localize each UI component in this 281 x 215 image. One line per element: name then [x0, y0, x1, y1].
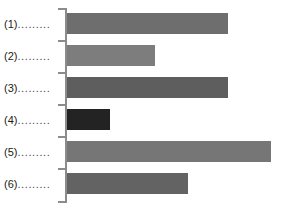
- bar-row: (6).........: [0, 173, 281, 194]
- bar-label-key: (3): [4, 82, 17, 94]
- bar-label: (1).........: [4, 13, 64, 34]
- bar-label-leader: .........: [17, 50, 50, 62]
- bar-label-leader: .........: [17, 114, 50, 126]
- axis-tick: [58, 72, 65, 74]
- bar-label-key: (5): [4, 146, 17, 158]
- bar-label-key: (6): [4, 178, 17, 190]
- bar[interactable]: [67, 141, 271, 162]
- bar[interactable]: [67, 109, 110, 130]
- bar[interactable]: [67, 173, 188, 194]
- bar-label: (3).........: [4, 77, 64, 98]
- bar[interactable]: [67, 77, 228, 98]
- bar-row: (5).........: [0, 141, 281, 162]
- bar[interactable]: [67, 13, 228, 34]
- bar-label-key: (2): [4, 50, 17, 62]
- bar-label: (5).........: [4, 141, 64, 162]
- bar-label: (2).........: [4, 45, 64, 66]
- axis-tick: [58, 8, 65, 10]
- bar-label: (4).........: [4, 109, 64, 130]
- bar-row: (1).........: [0, 13, 281, 34]
- bar-label-leader: .........: [17, 146, 50, 158]
- bar-label-leader: .........: [17, 82, 50, 94]
- axis-tick: [58, 40, 65, 42]
- bar-row: (2).........: [0, 45, 281, 66]
- bar-label: (6).........: [4, 173, 64, 194]
- bar-chart: (1)......... (2)......... (3)......... (…: [0, 0, 281, 215]
- axis-tick: [58, 168, 65, 170]
- axis-tick: [58, 104, 65, 106]
- bar-row: (3).........: [0, 77, 281, 98]
- bar-label-key: (1): [4, 18, 17, 30]
- bar[interactable]: [67, 45, 155, 66]
- bar-label-key: (4): [4, 114, 17, 126]
- bar-label-leader: .........: [17, 178, 50, 190]
- bar-label-leader: .........: [17, 18, 50, 30]
- axis-tick: [58, 136, 65, 138]
- axis-tick: [58, 201, 65, 203]
- bar-row: (4).........: [0, 109, 281, 130]
- plot-area: (1)......... (2)......... (3)......... (…: [0, 0, 281, 215]
